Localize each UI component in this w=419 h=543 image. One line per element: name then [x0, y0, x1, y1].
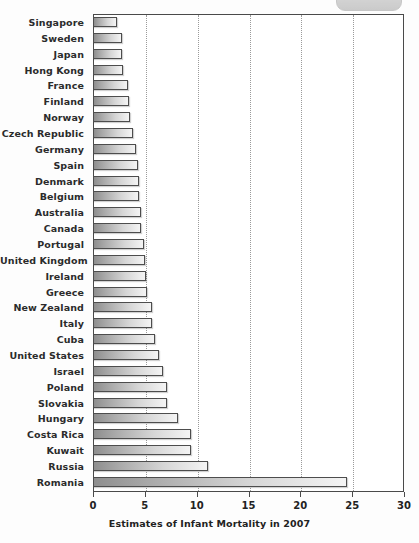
category-label: New Zealand — [0, 300, 89, 316]
bar — [93, 96, 129, 106]
category-label: Belgium — [0, 189, 89, 205]
bar-row — [93, 126, 404, 142]
bar-row — [93, 316, 404, 332]
bar — [93, 255, 145, 265]
bar — [93, 445, 191, 455]
x-tick-label: 0 — [90, 500, 97, 511]
bar — [93, 302, 152, 312]
bar-row — [93, 380, 404, 396]
bar-row — [93, 221, 404, 237]
bar — [93, 398, 167, 408]
category-label: Hong Kong — [0, 63, 89, 79]
bar-row — [93, 63, 404, 79]
bar — [93, 366, 163, 376]
x-axis-title: Estimates of Infant Mortality in 2007 — [0, 518, 419, 529]
infant-mortality-bar-chart: SingaporeSwedenJapanHong KongFranceFinla… — [0, 0, 419, 543]
bar-row — [93, 253, 404, 269]
bar — [93, 33, 122, 43]
tickmark-25 — [352, 492, 353, 497]
bar — [93, 334, 155, 344]
bar-row — [93, 285, 404, 301]
category-label: Spain — [0, 158, 89, 174]
bar — [93, 239, 144, 249]
bar-row — [93, 15, 404, 31]
bar-row — [93, 189, 404, 205]
x-axis-tickmarks — [93, 492, 404, 500]
bar — [93, 271, 146, 281]
bar-row — [93, 396, 404, 412]
category-label: Greece — [0, 285, 89, 301]
bar — [93, 80, 128, 90]
bar-row — [93, 94, 404, 110]
category-label: United Kingdom — [0, 253, 89, 269]
category-label: United States — [0, 348, 89, 364]
bar-row — [93, 269, 404, 285]
bar — [93, 65, 123, 75]
category-axis-labels: SingaporeSwedenJapanHong KongFranceFinla… — [0, 15, 89, 491]
bar-row — [93, 237, 404, 253]
bar — [93, 477, 347, 487]
tickmark-5 — [145, 492, 146, 497]
bar-row — [93, 31, 404, 47]
bar — [93, 382, 167, 392]
bar — [93, 429, 191, 439]
category-label: Australia — [0, 205, 89, 221]
bar — [93, 128, 133, 138]
category-label: Norway — [0, 110, 89, 126]
category-label: Czech Republic — [0, 126, 89, 142]
bar — [93, 191, 139, 201]
bar-row — [93, 348, 404, 364]
bar — [93, 160, 138, 170]
category-label: Kuwait — [0, 443, 89, 459]
tickmark-15 — [249, 492, 250, 497]
bar-row — [93, 364, 404, 380]
category-label: Cuba — [0, 332, 89, 348]
x-tick-label: 10 — [190, 500, 204, 511]
bar-row — [93, 427, 404, 443]
category-label: Canada — [0, 221, 89, 237]
bar-row — [93, 174, 404, 190]
category-label: Italy — [0, 316, 89, 332]
category-label: Ireland — [0, 269, 89, 285]
bar-row — [93, 443, 404, 459]
category-label: Costa Rica — [0, 427, 89, 443]
x-axis-tick-labels: 051015202530 — [93, 500, 404, 514]
tickmark-10 — [197, 492, 198, 497]
category-label: Poland — [0, 380, 89, 396]
category-label: Sweden — [0, 31, 89, 47]
tickmark-20 — [300, 492, 301, 497]
bar — [93, 207, 141, 217]
bar — [93, 144, 136, 154]
category-label: Portugal — [0, 237, 89, 253]
category-label: Hungary — [0, 411, 89, 427]
bar — [93, 112, 130, 122]
category-label: Russia — [0, 459, 89, 475]
bar-row — [93, 300, 404, 316]
category-label: Japan — [0, 47, 89, 63]
x-tick-label: 15 — [242, 500, 256, 511]
category-label: Israel — [0, 364, 89, 380]
bar-row — [93, 142, 404, 158]
bar-row — [93, 158, 404, 174]
bar — [93, 176, 139, 186]
bar-row — [93, 411, 404, 427]
bar-row — [93, 205, 404, 221]
category-label: Slovakia — [0, 396, 89, 412]
bar-row — [93, 78, 404, 94]
bar-row — [93, 110, 404, 126]
bar-row — [93, 459, 404, 475]
bar-row — [93, 475, 404, 491]
tickmark-0 — [93, 492, 94, 497]
bar — [93, 350, 159, 360]
bar — [93, 17, 117, 27]
bar — [93, 318, 152, 328]
bar-row — [93, 332, 404, 348]
category-label: Germany — [0, 142, 89, 158]
tickmark-30 — [404, 492, 405, 497]
bar — [93, 223, 141, 233]
bar-series — [93, 15, 404, 491]
bar — [93, 49, 122, 59]
bar — [93, 413, 178, 423]
x-tick-label: 30 — [397, 500, 411, 511]
category-label: France — [0, 78, 89, 94]
